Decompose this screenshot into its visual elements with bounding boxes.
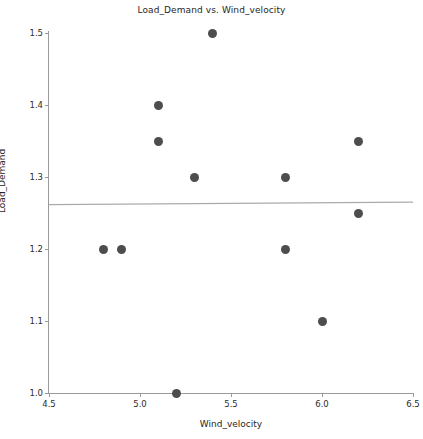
y-tick-label: 1.2 <box>29 244 43 254</box>
x-tick-label: 5.0 <box>133 399 147 409</box>
y-tick-mark <box>45 249 49 250</box>
data-point <box>154 101 163 110</box>
data-point <box>190 173 199 182</box>
data-point <box>281 173 290 182</box>
y-tick-mark <box>45 177 49 178</box>
x-tick-label: 6.5 <box>406 399 420 409</box>
data-point <box>208 29 217 38</box>
y-axis-label: Load_Demand <box>0 149 7 213</box>
scatter-plot-figure: Load_Demand vs. Wind_velocity 1.01.11.21… <box>0 0 423 439</box>
x-tick-label: 4.5 <box>42 399 56 409</box>
y-tick-mark <box>45 321 49 322</box>
y-tick-label: 1.3 <box>29 172 43 182</box>
y-tick-label: 1.1 <box>29 316 43 326</box>
data-point <box>154 137 163 146</box>
x-tick-mark <box>231 393 232 397</box>
chart-title: Load_Demand vs. Wind_velocity <box>0 5 423 15</box>
y-tick-label: 1.0 <box>29 388 43 398</box>
y-tick-mark <box>45 105 49 106</box>
data-point <box>354 137 363 146</box>
data-point <box>99 245 108 254</box>
x-tick-label: 5.5 <box>224 399 238 409</box>
data-point <box>318 317 327 326</box>
data-point <box>117 245 126 254</box>
data-point <box>281 245 290 254</box>
x-tick-mark <box>322 393 323 397</box>
x-tick-label: 6.0 <box>315 399 329 409</box>
plot-area: 1.01.11.21.31.41.5 4.55.05.56.06.5 <box>49 33 413 393</box>
data-point <box>354 209 363 218</box>
y-tick-label: 1.4 <box>29 100 43 110</box>
y-tick-mark <box>45 33 49 34</box>
y-tick-label: 1.5 <box>29 28 43 38</box>
x-tick-mark <box>49 393 50 397</box>
data-point <box>172 389 181 398</box>
x-axis-label: Wind_velocity <box>49 419 413 429</box>
x-tick-mark <box>140 393 141 397</box>
x-tick-mark <box>413 393 414 397</box>
